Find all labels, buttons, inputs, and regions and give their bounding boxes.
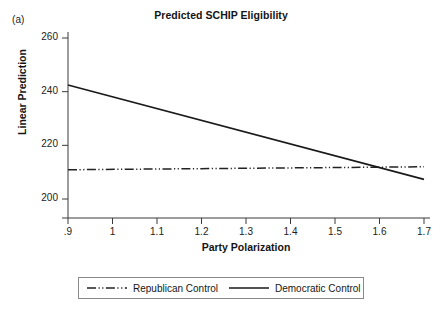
series-line-republican-control [68,167,424,170]
x-axis-tick-label: 1.1 [137,226,177,237]
y-axis-tick-label: 240 [18,85,58,96]
y-axis-tick-label: 260 [18,31,58,42]
legend-label-republican-control: Republican Control [133,283,218,294]
x-axis-tick-label: 1.5 [315,226,355,237]
chart-legend: Republican Control Democratic Control [78,277,364,299]
series-line-democratic-control [68,85,424,179]
x-axis-tick-label: .9 [48,226,88,237]
x-axis-ticks [68,218,424,224]
legend-item-republican-control: Republican Control [87,278,218,298]
x-axis-tick-label: 1.6 [360,226,400,237]
y-axis-tick-label: 200 [18,192,58,203]
legend-item-democratic-control: Democratic Control [229,278,361,298]
series-lines [68,85,424,179]
plot-area [0,0,442,314]
y-axis-tick-label: 220 [18,138,58,149]
legend-swatch-democratic [229,283,269,293]
x-axis-tick-label: 1.4 [271,226,311,237]
x-axis-tick-label: 1.3 [226,226,266,237]
x-axis-tick-label: 1.2 [182,226,222,237]
y-axis-ticks [62,38,68,199]
x-axis-tick-label: 1.7 [404,226,442,237]
legend-label-democratic-control: Democratic Control [275,283,361,294]
legend-swatch-republican [87,283,127,293]
chart-figure: (a) Predicted SCHIP Eligibility Linear P… [0,0,442,314]
x-axis-tick-label: 1 [93,226,133,237]
